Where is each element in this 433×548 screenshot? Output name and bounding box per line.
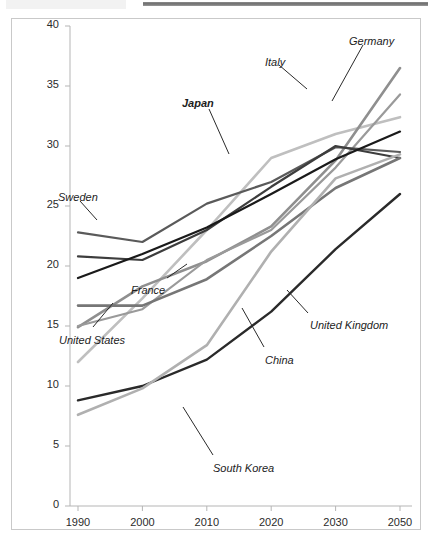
series-label-south-korea: South Korea [213, 462, 274, 474]
y-axis-tick-label: 10 [23, 378, 59, 390]
y-axis-tick-label: 25 [23, 198, 59, 210]
x-axis-tick-label: 2020 [246, 516, 296, 528]
annotation-leader-line [80, 201, 97, 220]
series-label-italy: Italy [265, 56, 285, 68]
y-axis-tick-label: 0 [23, 498, 59, 510]
series-label-japan: Japan [182, 97, 214, 109]
annotation-leader-line [332, 45, 363, 101]
series-line-italy [78, 68, 400, 327]
series-label-sweden: Sweden [58, 191, 98, 203]
annotation-leader-line [209, 109, 229, 154]
x-axis-tick-label: 2000 [117, 516, 167, 528]
x-axis-tick-label: 1990 [53, 516, 103, 528]
series-label-united-kingdom: United Kingdom [310, 319, 388, 331]
y-axis-tick-label: 35 [23, 78, 59, 90]
window-title-bar-strip [143, 2, 428, 6]
chart-plot-area: 0510152025303540199020002010202020302050… [11, 18, 421, 530]
line-chart-svg [12, 19, 420, 529]
x-axis-tick-label: 2050 [375, 516, 425, 528]
screenshot-root: 0510152025303540199020002010202020302050… [0, 0, 433, 548]
annotation-leader-line [242, 308, 264, 347]
series-line-united-states [78, 158, 400, 306]
clipped-header-text [6, 0, 126, 9]
series-label-united-states: United States [59, 334, 125, 346]
y-axis-tick-label: 30 [23, 138, 59, 150]
annotation-leader-line [279, 65, 307, 89]
series-label-france: France [131, 284, 165, 296]
series-label-china: China [265, 354, 294, 366]
y-axis-tick-label: 40 [23, 18, 59, 30]
y-axis-tick-label: 20 [23, 258, 59, 270]
clipped-top-strip [0, 0, 433, 13]
annotation-leader-line [287, 290, 308, 313]
y-axis-tick-label: 5 [23, 438, 59, 450]
series-label-germany: Germany [349, 35, 394, 47]
x-axis-tick-label: 2010 [182, 516, 232, 528]
annotation-leader-line [183, 407, 213, 455]
y-axis-tick-label: 15 [23, 318, 59, 330]
x-axis-tick-label: 2030 [311, 516, 361, 528]
